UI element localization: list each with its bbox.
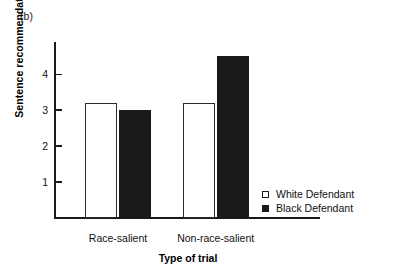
y-tick-label-1: 1	[32, 177, 48, 188]
y-tick-label-3: 3	[32, 105, 48, 116]
figure-panel-b: (b) 1234 Sentence recommendation Race-sa…	[0, 0, 400, 274]
x-tick-label-non-race-salient: Non-race-salient	[136, 232, 296, 244]
bar-white-defendant-non-race-salient	[183, 103, 215, 218]
legend-label-black-defendant: Black Defendant	[276, 202, 353, 215]
bar-white-defendant-race-salient	[85, 103, 117, 218]
legend-item-white-defendant: White Defendant	[262, 188, 354, 201]
y-tick-label-4: 4	[32, 69, 48, 80]
y-tick-label-2: 2	[32, 141, 48, 152]
y-axis-title: Sentence recommendation	[13, 0, 25, 140]
filled-square-icon	[262, 205, 269, 212]
legend-label-white-defendant: White Defendant	[276, 188, 354, 201]
legend: White Defendant Black Defendant	[262, 188, 354, 216]
open-square-icon	[262, 191, 269, 198]
bar-black-defendant-non-race-salient	[217, 56, 249, 218]
bar-black-defendant-race-salient	[119, 110, 151, 218]
x-axis-title: Type of trial	[56, 252, 320, 264]
legend-item-black-defendant: Black Defendant	[262, 202, 354, 215]
